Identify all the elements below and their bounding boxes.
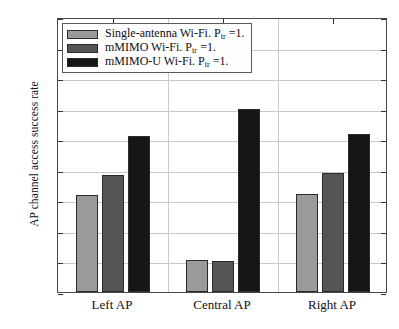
y-tick-mark-right bbox=[381, 141, 386, 142]
x-category-label: Right AP bbox=[272, 297, 392, 313]
legend-label: mMIMO Wi-Fi. Ptr =1. bbox=[105, 41, 216, 55]
y-tick-mark bbox=[58, 141, 63, 142]
y-tick-mark bbox=[58, 111, 63, 112]
y-tick-mark-right bbox=[381, 263, 386, 264]
bar bbox=[296, 194, 318, 292]
y-tick-mark bbox=[58, 202, 63, 203]
y-tick-mark-right bbox=[381, 202, 386, 203]
y-gridline bbox=[58, 111, 386, 112]
bar bbox=[212, 261, 234, 292]
legend-item[interactable]: Single-antenna Wi-Fi. Ptr =1. bbox=[67, 27, 245, 41]
y-gridline bbox=[58, 141, 386, 142]
legend-label: Single-antenna Wi-Fi. Ptr =1. bbox=[105, 27, 245, 41]
y-axis-title: AP channel access success rate bbox=[28, 24, 40, 284]
y-tick-mark-right bbox=[381, 233, 386, 234]
legend-item[interactable]: mMIMO-U Wi-Fi. Ptr =1. bbox=[67, 55, 245, 69]
bar bbox=[322, 173, 344, 292]
y-tick-mark bbox=[58, 294, 63, 295]
legend-item[interactable]: mMIMO Wi-Fi. Ptr =1. bbox=[67, 41, 245, 55]
y-tick-mark bbox=[58, 80, 63, 81]
figure: AP channel access success rate 0.30.350.… bbox=[0, 0, 399, 329]
y-tick-mark-right bbox=[381, 294, 386, 295]
bar bbox=[76, 195, 98, 292]
y-tick-mark-right bbox=[381, 80, 386, 81]
x-gridline bbox=[278, 19, 279, 292]
y-gridline bbox=[58, 80, 386, 81]
y-tick-mark bbox=[58, 263, 63, 264]
legend-swatch bbox=[67, 44, 98, 53]
x-tick-mark-top bbox=[333, 19, 334, 24]
y-tick-mark-right bbox=[381, 111, 386, 112]
y-tick-mark bbox=[58, 19, 63, 20]
y-tick-mark bbox=[58, 172, 63, 173]
bar bbox=[102, 175, 124, 292]
legend-label: mMIMO-U Wi-Fi. Ptr =1. bbox=[105, 55, 229, 69]
bar bbox=[186, 260, 208, 292]
legend-swatch bbox=[67, 58, 98, 67]
bar bbox=[238, 109, 260, 292]
x-category-label: Left AP bbox=[52, 297, 172, 313]
x-category-label: Central AP bbox=[162, 297, 282, 313]
bar bbox=[128, 136, 150, 292]
y-tick-mark bbox=[58, 233, 63, 234]
y-tick-mark-right bbox=[381, 172, 386, 173]
y-tick-mark-right bbox=[381, 19, 386, 20]
bar bbox=[348, 134, 370, 292]
legend-swatch bbox=[67, 30, 98, 39]
y-tick-mark-right bbox=[381, 50, 386, 51]
legend: Single-antenna Wi-Fi. Ptr =1.mMIMO Wi-Fi… bbox=[62, 23, 252, 73]
